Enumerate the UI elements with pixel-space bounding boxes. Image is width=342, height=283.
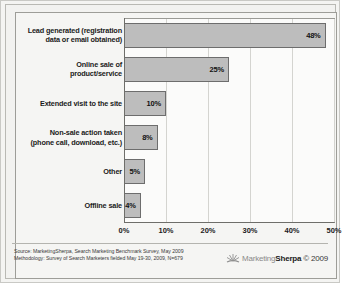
bar-row: 10% xyxy=(124,91,335,116)
value-axis-tick-label: 30% xyxy=(242,226,257,235)
category-label: Extended visit to the site xyxy=(12,99,122,108)
value-axis-tick-label: 50% xyxy=(326,226,341,235)
category-label-line: Offline sale xyxy=(12,201,122,210)
value-axis-tick-label: 20% xyxy=(200,226,215,235)
bar-value-label: 8% xyxy=(142,133,156,142)
bar-value-label: 5% xyxy=(130,167,144,176)
value-axis-line xyxy=(124,18,125,223)
source-note: Source: MarketingSherpa, Search Marketin… xyxy=(14,248,184,261)
value-axis-tick-label: 40% xyxy=(284,226,299,235)
bar-value-label: 4% xyxy=(125,201,139,210)
bar-row: 48% xyxy=(124,23,335,48)
source-line-2: Methodology: Survey of Search Marketers … xyxy=(14,255,184,262)
bar-series: 48%25%10%8%5%4% xyxy=(124,18,335,223)
category-label-line: (phone call, download, etc.) xyxy=(12,138,122,147)
bar: 25% xyxy=(124,57,229,82)
brand-copyright: © 2009 xyxy=(303,254,328,263)
category-label-line: product/service xyxy=(12,69,122,78)
chart-plot-area: 48%25%10%8%5%4% xyxy=(124,18,335,223)
category-label-line: Other xyxy=(12,167,122,176)
bar-value-label: 25% xyxy=(210,65,228,74)
bar: 4% xyxy=(124,193,141,218)
bar: 8% xyxy=(124,125,158,150)
value-axis-tick-label: 10% xyxy=(158,226,173,235)
category-label: Lead generated (registrationdata or emai… xyxy=(12,26,122,44)
brand-part-1: Marketing xyxy=(242,254,275,263)
bar-value-label: 10% xyxy=(147,99,165,108)
bar-row: 25% xyxy=(124,57,335,82)
category-label-line: Online sale of xyxy=(12,60,122,69)
bar-row: 8% xyxy=(124,125,335,150)
brand-text: MarketingSherpa © 2009 xyxy=(242,254,328,263)
bar-value-label: 48% xyxy=(306,31,324,40)
brand-part-2: Sherpa xyxy=(275,254,301,263)
category-label-line: Extended visit to the site xyxy=(12,99,122,108)
category-label-line: data or email obtained) xyxy=(12,35,122,44)
category-label-line: Lead generated (registration xyxy=(12,26,122,35)
category-label: Offline sale xyxy=(12,201,122,210)
category-label: Other xyxy=(12,167,122,176)
bar: 5% xyxy=(124,159,145,184)
brand-logo: MarketingSherpa © 2009 xyxy=(226,252,328,264)
category-label: Non-sale action taken(phone call, downlo… xyxy=(12,128,122,146)
bar-row: 5% xyxy=(124,159,335,184)
value-axis-tick-labels: 0%10%20%30%40%50% xyxy=(124,226,337,238)
bar: 10% xyxy=(124,91,166,116)
category-label-line: Non-sale action taken xyxy=(12,128,122,137)
bar-row: 4% xyxy=(124,193,335,218)
value-axis-tick-label: 0% xyxy=(119,226,130,235)
sunburst-logo-icon xyxy=(226,251,240,263)
bar: 48% xyxy=(124,23,326,48)
category-label: Online sale ofproduct/service xyxy=(12,60,122,78)
category-axis-labels: Lead generated (registrationdata or emai… xyxy=(12,18,122,223)
source-line-1: Source: MarketingSherpa, Search Marketin… xyxy=(14,248,184,255)
footer-divider xyxy=(12,243,328,244)
